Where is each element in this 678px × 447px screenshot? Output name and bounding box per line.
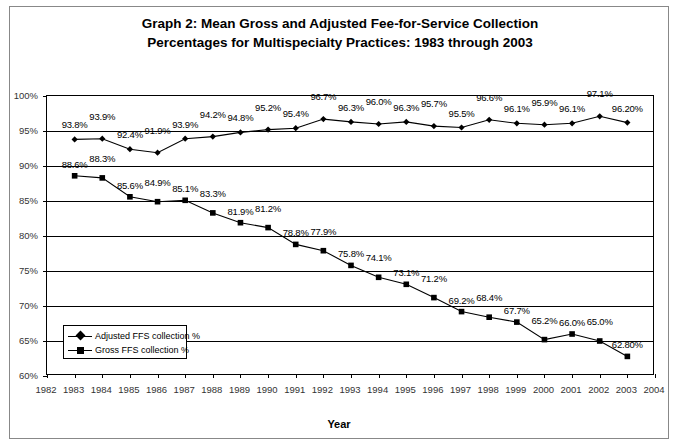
x-axis-title: Year xyxy=(0,418,678,430)
x-tick-label: 2004 xyxy=(643,384,664,395)
data-label: 78.8% xyxy=(283,227,309,238)
data-label: 92.4% xyxy=(117,129,143,140)
data-label: 75.8% xyxy=(338,248,364,259)
x-tick-label: 1982 xyxy=(35,384,56,395)
y-tick-label: 75% xyxy=(0,265,42,276)
data-label: 88.6% xyxy=(62,159,88,170)
data-label: 77.9% xyxy=(310,226,336,237)
x-tick-label: 2003 xyxy=(616,384,637,395)
y-tick-label: 60% xyxy=(0,370,42,381)
data-label: 95.2% xyxy=(255,102,281,113)
data-label: 81.2% xyxy=(255,203,281,214)
y-tick-label: 80% xyxy=(0,230,42,241)
data-label: 83.3% xyxy=(200,188,226,199)
data-label: 96.6% xyxy=(476,92,502,103)
x-tick-label: 1989 xyxy=(229,384,250,395)
x-tick-label: 1986 xyxy=(146,384,167,395)
y-tick-label: 95% xyxy=(0,125,42,136)
plot-area: 93.8%93.9%92.4%91.9%93.9%94.2%94.8%95.2%… xyxy=(46,95,654,375)
x-tick-label: 1999 xyxy=(505,384,526,395)
data-label: 95.7% xyxy=(421,98,447,109)
x-tick-label: 1991 xyxy=(284,384,305,395)
legend-item-gross: Gross FFS collection % xyxy=(68,343,182,357)
data-label: 73.1% xyxy=(393,267,419,278)
data-label: 96.7% xyxy=(310,91,336,102)
data-label: 66.0% xyxy=(559,317,585,328)
x-tick-label: 1983 xyxy=(63,384,84,395)
data-label: 96.1% xyxy=(559,103,585,114)
data-label: 84.9% xyxy=(145,177,171,188)
data-label: 62.80% xyxy=(612,339,643,350)
y-tick-label: 70% xyxy=(0,300,42,311)
data-label: 96.3% xyxy=(338,102,364,113)
data-label: 67.7% xyxy=(504,305,530,316)
data-label: 65.2% xyxy=(531,315,557,326)
chart-legend: Adjusted FFS collection % Gross FFS coll… xyxy=(63,325,187,359)
diamond-marker-icon xyxy=(68,331,92,341)
x-tick-label: 1987 xyxy=(174,384,195,395)
x-tick-label: 2001 xyxy=(561,384,582,395)
data-label: 95.4% xyxy=(283,108,309,119)
x-tick-label: 1990 xyxy=(257,384,278,395)
x-tick-label: 1992 xyxy=(312,384,333,395)
y-tick-label: 100% xyxy=(0,90,42,101)
data-label: 96.3% xyxy=(393,102,419,113)
x-tick-label: 1984 xyxy=(91,384,112,395)
legend-label-gross: Gross FFS collection % xyxy=(95,345,189,355)
x-tick-label: 1998 xyxy=(478,384,499,395)
square-marker-icon xyxy=(68,345,92,355)
x-tick-label: 1994 xyxy=(367,384,388,395)
data-label: 94.8% xyxy=(227,112,253,123)
data-label: 96.0% xyxy=(366,96,392,107)
x-tick-label: 2002 xyxy=(588,384,609,395)
data-labels: 93.8%93.9%92.4%91.9%93.9%94.2%94.8%95.2%… xyxy=(1,1,678,447)
x-tick-label: 1996 xyxy=(422,384,443,395)
data-label: 97.1% xyxy=(587,88,613,99)
chart-figure: Graph 2: Mean Gross and Adjusted Fee-for… xyxy=(0,0,678,447)
x-tick-label: 1993 xyxy=(339,384,360,395)
x-tick-label: 2000 xyxy=(533,384,554,395)
data-label: 69.2% xyxy=(449,295,475,306)
data-label: 95.9% xyxy=(531,97,557,108)
data-label: 94.2% xyxy=(200,109,226,120)
data-label: 88.3% xyxy=(89,153,115,164)
data-label: 65.0% xyxy=(587,316,613,327)
data-label: 81.9% xyxy=(227,206,253,217)
data-label: 93.9% xyxy=(172,119,198,130)
data-label: 71.2% xyxy=(421,273,447,284)
data-label: 93.9% xyxy=(89,111,115,122)
data-label: 68.4% xyxy=(476,292,502,303)
data-label: 96.1% xyxy=(504,103,530,114)
y-tick-label: 90% xyxy=(0,160,42,171)
x-tick-label: 1995 xyxy=(395,384,416,395)
data-label: 93.8% xyxy=(62,119,88,130)
data-label: 95.5% xyxy=(449,108,475,119)
y-tick-label: 65% xyxy=(0,335,42,346)
data-label: 74.1% xyxy=(366,252,392,263)
data-label: 85.1% xyxy=(172,183,198,194)
y-tick-label: 85% xyxy=(0,195,42,206)
data-label: 91.9% xyxy=(145,125,171,136)
x-tick-label: 1988 xyxy=(201,384,222,395)
x-tick-label: 1997 xyxy=(450,384,471,395)
x-tick-label: 1985 xyxy=(118,384,139,395)
data-label: 96.20% xyxy=(612,103,643,114)
legend-label-adjusted: Adjusted FFS collection % xyxy=(95,331,200,341)
data-label: 85.6% xyxy=(117,180,143,191)
legend-item-adjusted: Adjusted FFS collection % xyxy=(68,329,182,343)
